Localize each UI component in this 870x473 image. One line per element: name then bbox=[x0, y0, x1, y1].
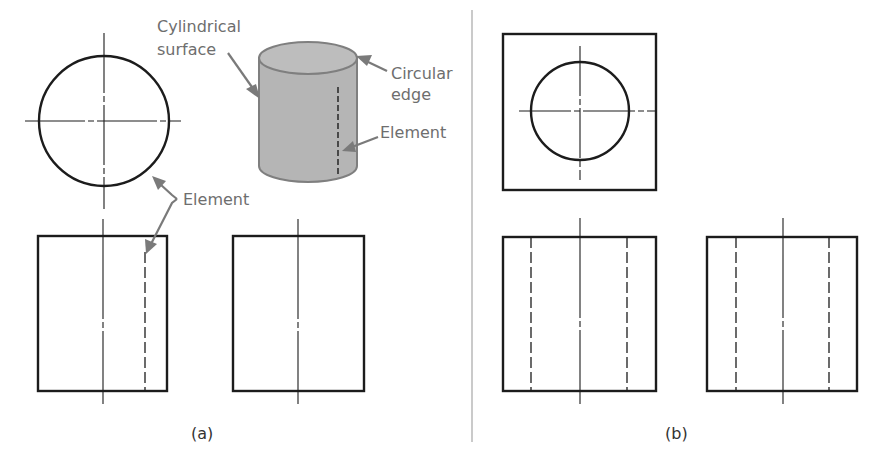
arrowhead-icon bbox=[246, 84, 260, 99]
leader-arrow-element-to-front-view bbox=[151, 199, 177, 244]
arrowhead-icon bbox=[356, 55, 372, 66]
leader-arrow-circular-edge bbox=[366, 61, 387, 71]
callout-cylindrical-surface-line2: surface bbox=[157, 40, 216, 59]
leader-arrow-cylindrical-surface bbox=[228, 53, 254, 90]
panel-a-caption: (a) bbox=[191, 424, 213, 443]
panel-a-side-view bbox=[233, 219, 364, 404]
callout-element-views-label: Element bbox=[183, 190, 249, 209]
cylinder-top-face bbox=[259, 42, 357, 74]
orthographic-cylinder-figure: Cylindrical surface Circular edge Elemen… bbox=[0, 0, 870, 473]
pictorial-cylinder bbox=[259, 42, 357, 182]
leader-arrow-element-to-circle bbox=[160, 184, 177, 199]
cylinder-body bbox=[259, 58, 357, 182]
panel-b-top-view bbox=[503, 34, 656, 190]
panel-b-caption: (b) bbox=[665, 424, 688, 443]
callout-circular-edge-line1: Circular bbox=[391, 64, 453, 83]
callout-cylindrical-surface: Cylindrical surface bbox=[157, 17, 260, 99]
panel-b-front-view bbox=[503, 218, 656, 404]
side-view-outline bbox=[707, 237, 857, 391]
panel-b: (b) bbox=[503, 34, 857, 443]
panel-a: Cylindrical surface Circular edge Elemen… bbox=[25, 17, 453, 443]
callout-circular-edge-line2: edge bbox=[391, 85, 431, 104]
callout-element-pictorial-label: Element bbox=[380, 123, 446, 142]
callout-circular-edge: Circular edge bbox=[356, 55, 453, 104]
arrowhead-icon bbox=[145, 239, 157, 254]
callout-cylindrical-surface-line1: Cylindrical bbox=[157, 17, 241, 36]
panel-b-side-view bbox=[707, 218, 857, 404]
